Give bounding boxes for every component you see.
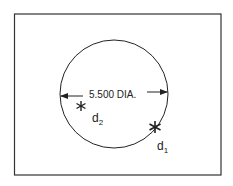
dimension-label: 5.500 DIA. — [89, 89, 136, 100]
point-d2-marker-icon — [77, 101, 86, 111]
bolt-circle-diagram: 5.500 DIA. d2 d1 — [0, 0, 233, 186]
point-d1-marker-icon — [150, 121, 161, 133]
point-d1-label: d1 — [157, 139, 169, 155]
point-d2-label: d2 — [92, 111, 104, 127]
